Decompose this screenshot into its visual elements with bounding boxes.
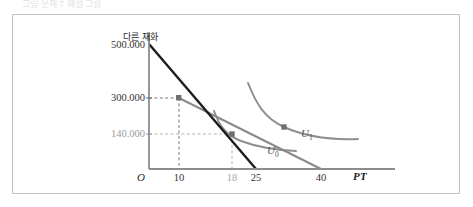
budget-line-steep <box>149 44 256 169</box>
figure-page: 그림 문제 7 해설 그림 <box>0 0 473 207</box>
curve-label-U1: U1 <box>301 127 313 142</box>
curve-label-U0-letter: U <box>267 144 275 156</box>
origin-label: O <box>137 171 145 183</box>
y-tick-label-300000: 300.000 <box>91 92 145 103</box>
indifference-curve-chart <box>13 15 459 193</box>
curve-label-U1-letter: U <box>301 127 309 139</box>
figure-frame: 다른 재화 500.000 300.000 140.000 10 18 25 4… <box>12 14 460 194</box>
indifference-curve-U0-path <box>214 111 296 151</box>
data-point-markers <box>176 95 287 137</box>
dashed-guides <box>149 98 232 169</box>
caption-text: 그림 문제 7 해설 그림 <box>22 0 202 9</box>
curve-label-U0: U0 <box>267 144 279 159</box>
x-tick-label-40: 40 <box>309 172 333 183</box>
marker-tangency-U0 <box>229 131 234 136</box>
y-tick-label-140000: 140.000 <box>91 128 145 139</box>
x-axis-title: PT <box>353 170 367 182</box>
marker-kink-point <box>176 95 181 100</box>
curve-label-U1-sub: 1 <box>309 133 313 142</box>
x-tick-label-25: 25 <box>244 172 268 183</box>
marker-tangency-U1 <box>281 124 286 129</box>
x-tick-label-10: 10 <box>167 172 191 183</box>
y-tick-label-500000: 500.000 <box>91 39 145 50</box>
curve-label-U0-sub: 0 <box>275 150 279 159</box>
x-tick-label-18: 18 <box>220 172 244 183</box>
